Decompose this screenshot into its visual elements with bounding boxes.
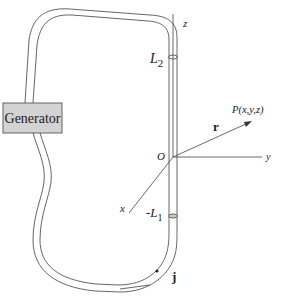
- r-arrowhead-icon: [244, 121, 252, 127]
- r-vector: [173, 123, 248, 157]
- antenna-diagram: Generator z y x O L2 -L1 r P(x,y,z) j: [0, 0, 282, 301]
- y-axis-label: y: [265, 151, 271, 162]
- generator-label: Generator: [5, 111, 61, 126]
- wire-inner-strand: [33, 15, 169, 285]
- current-j-label: j: [171, 269, 176, 284]
- l2-label: L2: [149, 51, 163, 69]
- ring-minus-l1: [169, 214, 178, 218]
- current-dot-icon: [156, 270, 159, 273]
- x-axis-label: x: [119, 202, 125, 214]
- z-axis-label: z: [182, 17, 188, 29]
- minus-l1-label-sub: 1: [158, 212, 163, 223]
- l2-label-sub: 2: [158, 57, 164, 69]
- r-vector-label: r: [213, 119, 219, 134]
- minus-l1-label: -L1: [146, 205, 163, 223]
- point-p-label: P(x,y,z): [231, 104, 264, 116]
- l2-label-base: L: [149, 51, 158, 66]
- origin-label: O: [157, 150, 165, 162]
- minus-l1-label-base: -L: [146, 205, 158, 220]
